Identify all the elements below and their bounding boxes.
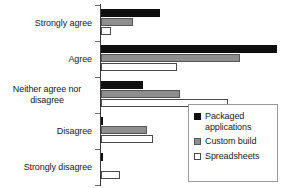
bar-spreadsheets	[101, 27, 111, 35]
bar-packaged-applications	[101, 9, 160, 17]
legend-item-packaged-applications: Packaged applications	[194, 111, 273, 132]
legend-item-custom-build: Custom build	[194, 136, 273, 147]
bar-custom-build	[101, 126, 147, 134]
bar-custom-build	[101, 90, 180, 98]
category-label-line2: disagree	[30, 95, 64, 105]
axis-tick	[95, 77, 100, 78]
axis-tick	[95, 185, 100, 186]
axis-tick	[95, 5, 100, 6]
category-axis-labels: Strongly agree Agree Neither agree nor d…	[0, 5, 96, 185]
category-label-strongly-disagree: Strongly disagree	[0, 149, 96, 185]
category-label-text: Disagree	[57, 126, 92, 137]
bar-group-strongly-agree	[101, 5, 287, 41]
bar-packaged-applications	[101, 153, 103, 161]
category-label-line1: Neither agree nor	[13, 84, 81, 94]
category-label-text: Neither agree nor disagree	[13, 84, 81, 106]
axis-tick	[95, 149, 100, 150]
bar-packaged-applications	[101, 81, 143, 89]
bar-spreadsheets	[101, 135, 153, 143]
black-square-icon	[194, 113, 201, 120]
gray-square-icon	[194, 138, 201, 145]
category-label-neither-agree-nor-disagree: Neither agree nor disagree	[0, 77, 96, 113]
bar-custom-build	[101, 18, 133, 26]
legend: Packaged applications Custom build Sprea…	[188, 104, 278, 182]
bar-packaged-applications	[101, 117, 103, 125]
bar-group-agree	[101, 41, 287, 77]
bar-spreadsheets	[101, 171, 120, 179]
legend-label-line1: Packaged	[205, 111, 244, 121]
legend-item-label: Packaged applications	[205, 111, 251, 132]
legend-label-line2: applications	[205, 122, 251, 132]
axis-tick	[95, 41, 100, 42]
category-label-agree: Agree	[0, 41, 96, 77]
category-label-strongly-agree: Strongly agree	[0, 5, 96, 41]
category-label-text: Strongly agree	[35, 18, 92, 29]
bar-spreadsheets	[101, 63, 177, 71]
legend-item-spreadsheets: Spreadsheets	[194, 151, 273, 162]
category-label-text: Agree	[68, 54, 92, 65]
axis-tick	[95, 113, 100, 114]
category-label-disagree: Disagree	[0, 113, 96, 149]
bar-chart: Strongly agree Agree Neither agree nor d…	[0, 0, 287, 188]
bar-packaged-applications	[101, 45, 277, 53]
bar-custom-build	[101, 54, 240, 62]
legend-item-label: Spreadsheets	[205, 151, 259, 162]
legend-item-label: Custom build	[205, 136, 256, 147]
white-square-icon	[194, 153, 201, 160]
category-label-text: Strongly disagree	[24, 162, 92, 173]
